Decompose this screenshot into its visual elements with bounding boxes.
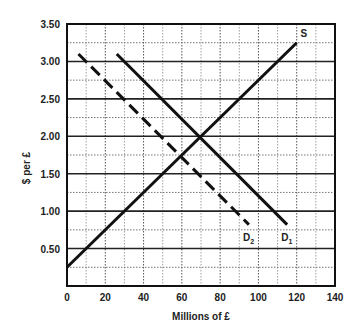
x-axis-ticks: 020406080100120140	[64, 292, 344, 303]
label-s: S	[301, 28, 308, 39]
x-tick-label: 100	[250, 292, 267, 303]
y-tick-label: 1.00	[41, 206, 61, 217]
label-d2: D2	[243, 232, 254, 245]
y-tick-label: 3.00	[41, 56, 61, 67]
y-tick-label: 3.50	[41, 19, 61, 30]
x-tick-label: 0	[64, 292, 70, 303]
x-tick-label: 120	[288, 292, 305, 303]
label-d1: D1	[281, 232, 292, 245]
grid	[67, 24, 335, 286]
x-tick-label: 60	[176, 292, 188, 303]
y-tick-label: 0.50	[41, 244, 61, 255]
y-axis-label: $ per £	[21, 151, 32, 184]
curve-d1	[117, 54, 287, 225]
x-axis-label: Millions of £	[172, 311, 230, 322]
x-tick-label: 20	[100, 292, 112, 303]
curve-d2	[78, 54, 248, 225]
y-axis-ticks: 0.501.001.502.002.503.003.50	[41, 19, 61, 255]
x-tick-label: 40	[138, 292, 150, 303]
y-tick-label: 1.50	[41, 169, 61, 180]
y-tick-label: 2.00	[41, 131, 61, 142]
x-tick-label: 140	[327, 292, 344, 303]
y-tick-label: 2.50	[41, 94, 61, 105]
supply-demand-chart: 020406080100120140 0.501.001.502.002.503…	[0, 0, 363, 336]
x-tick-label: 80	[215, 292, 227, 303]
